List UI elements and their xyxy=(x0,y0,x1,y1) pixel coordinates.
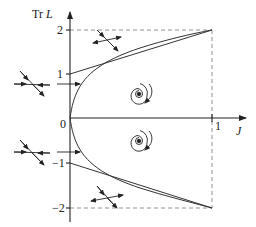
upper-line xyxy=(70,30,212,74)
y-tick-neg1: −1 xyxy=(52,156,65,170)
stability-diagram: Tr L J 2 1 0 −1 −2 1 xyxy=(0,0,256,227)
x-tick-1: 1 xyxy=(215,119,221,133)
y-tick-1: 1 xyxy=(57,67,63,81)
y-tick-2: 2 xyxy=(57,23,63,37)
spiral-icon-lower xyxy=(131,131,152,152)
saddle-icon-lower-bottom xyxy=(91,186,123,208)
saddle-icon-lower-left xyxy=(14,140,50,165)
parabola-curve xyxy=(70,30,212,208)
y-tick-0: 0 xyxy=(60,117,66,131)
x-axis-label: J xyxy=(236,124,242,138)
y-axis-label: Tr L xyxy=(32,7,53,21)
saddle-icon-upper-top xyxy=(93,30,121,51)
spiral-icon-upper xyxy=(131,84,152,105)
y-tick-neg2: −2 xyxy=(52,201,65,215)
dashed-box xyxy=(70,30,212,208)
saddle-icon-upper-left xyxy=(14,71,50,96)
